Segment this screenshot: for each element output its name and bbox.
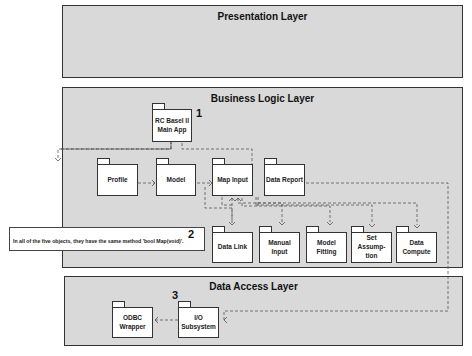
package-model-label: Model	[156, 164, 196, 196]
package-data-link-label: Data Link	[212, 232, 253, 263]
package-map-input-label: Map Input	[212, 164, 253, 196]
package-io-subsystem-label: I/O Subsystem	[178, 307, 219, 338]
package-main-app-label: RC Basel II Main App	[152, 109, 192, 142]
package-set-assumption-label: Set Assump- tion	[351, 232, 392, 263]
note-text: In all of the five objects, they have th…	[13, 238, 184, 244]
package-data-compute-label: Data Compute	[396, 232, 437, 263]
note-callout: 2 In all of the five objects, they have …	[9, 227, 205, 251]
callout-number-3: 3	[172, 289, 178, 301]
callout-number-1: 1	[196, 107, 202, 119]
package-odbc-wrapper-label: ODBC Wrapper	[112, 307, 153, 338]
package-profile-label: Profile	[97, 164, 138, 196]
package-model-fitting-label: Model Fitting	[306, 232, 347, 263]
package-manual-input-label: Manual Input	[259, 232, 300, 263]
callout-number-2: 2	[188, 228, 194, 240]
package-data-report-label: Data Report	[264, 164, 305, 196]
